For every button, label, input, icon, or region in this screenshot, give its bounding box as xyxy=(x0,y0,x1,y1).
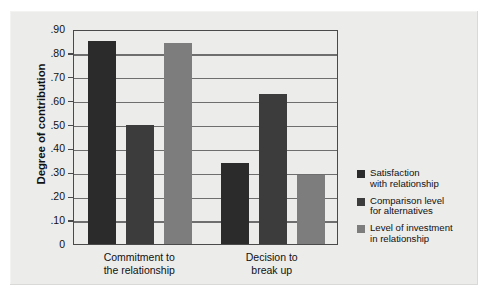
legend-item: Level of investmentin relationship xyxy=(357,223,479,245)
legend-swatch-icon xyxy=(357,198,365,206)
legend-item-label: Satisfactionwith relationship xyxy=(370,168,439,190)
chart-legend: Satisfactionwith relationshipComparison … xyxy=(357,168,479,251)
legend-item: Satisfactionwith relationship xyxy=(357,168,479,190)
legend-item-label-line: for alternatives xyxy=(370,206,444,217)
x-axis-category-label: Commitment tothe relationship xyxy=(69,251,209,276)
y-axis-tick-label: .90 xyxy=(35,23,65,35)
legend-item-label-line: in relationship xyxy=(370,234,453,245)
legend-item-label: Comparison levelfor alternatives xyxy=(370,196,444,218)
legend-item-label: Level of investmentin relationship xyxy=(370,223,453,245)
legend-item: Comparison levelfor alternatives xyxy=(357,196,479,218)
bar xyxy=(164,43,192,244)
y-axis-tick-label: .60 xyxy=(35,95,65,107)
bar xyxy=(221,163,249,244)
y-axis-tick-label: .30 xyxy=(35,166,65,178)
x-axis-category-label-line: break up xyxy=(202,264,342,277)
chart-figure: Degree of contribution 0.10.20.30.40.50.… xyxy=(0,0,490,303)
y-axis-tick-label: .10 xyxy=(35,214,65,226)
y-axis-tick-label: .50 xyxy=(35,119,65,131)
plot-area xyxy=(73,30,338,245)
x-axis-category-label-line: Decision to xyxy=(202,251,342,264)
x-axis-category-label-line: Commitment to xyxy=(69,251,209,264)
y-axis-tick-label: .40 xyxy=(35,142,65,154)
legend-swatch-icon xyxy=(357,170,365,178)
y-axis-tick-label: .20 xyxy=(35,190,65,202)
legend-item-label-line: with relationship xyxy=(370,179,439,190)
y-axis-tick-label: 0 xyxy=(35,238,65,250)
legend-swatch-icon xyxy=(357,225,365,233)
bar xyxy=(259,94,287,245)
x-axis-category-label-line: the relationship xyxy=(69,264,209,277)
x-axis-category-label: Decision tobreak up xyxy=(202,251,342,276)
bar xyxy=(88,41,116,244)
y-axis-tick-label: .80 xyxy=(35,47,65,59)
bar xyxy=(126,125,154,244)
y-axis-tick-label: .70 xyxy=(35,71,65,83)
bar xyxy=(297,175,325,244)
